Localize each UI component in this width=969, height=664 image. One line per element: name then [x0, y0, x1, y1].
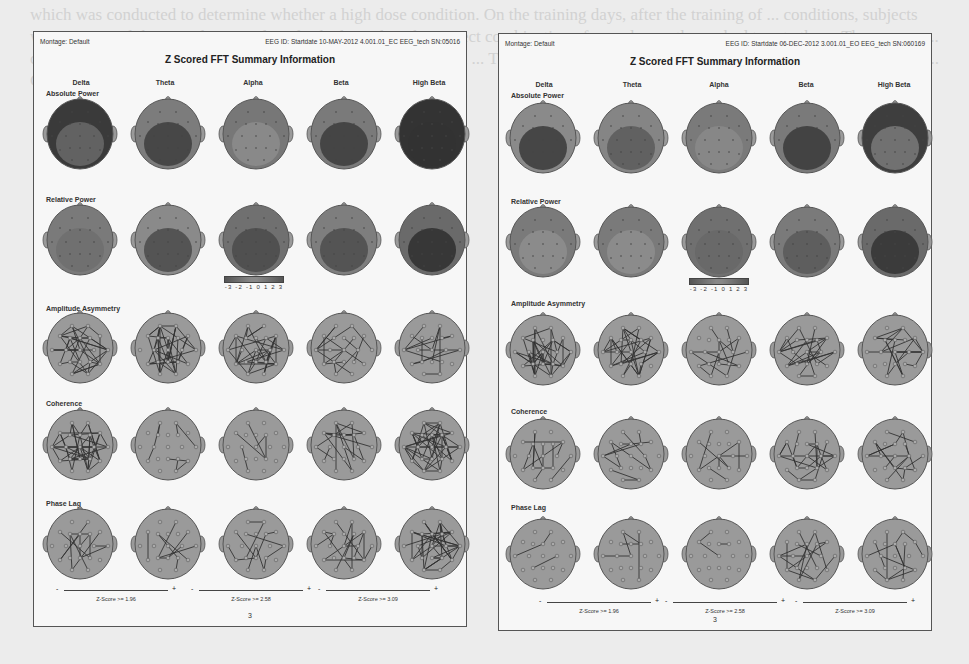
band-alpha: Alpha — [218, 79, 288, 86]
head-map-amplitude-asymmetry-beta — [306, 308, 382, 384]
zscore-legend-3: -+ Z-Score >= 3.09 — [795, 600, 915, 614]
head-map-relative-power-beta — [769, 202, 845, 278]
report-title: Z Scored FFT Summary Information — [34, 54, 466, 65]
head-map-phase-lag-alpha — [218, 504, 294, 580]
head-map-amplitude-asymmetry-high-beta — [857, 310, 933, 386]
head-map-absolute-power-high-beta — [394, 94, 470, 170]
row-label-phase-lag: Phase Lag — [511, 504, 546, 511]
head-map-coherence-high-beta — [857, 414, 933, 490]
head-map-coherence-beta — [769, 414, 845, 490]
colorbar-gradient — [689, 278, 749, 285]
head-map-coherence-high-beta — [394, 405, 470, 481]
head-map-relative-power-beta — [306, 200, 382, 276]
head-map-relative-power-alpha — [681, 202, 757, 278]
eeg-id-label: EEG ID: Startdate 06-DEC-2012 3.001.01_E… — [726, 40, 925, 47]
page-number: 3 — [499, 616, 931, 623]
head-map-amplitude-asymmetry-theta — [130, 308, 206, 384]
band-headers: Delta Theta Alpha Beta High Beta — [509, 81, 921, 91]
zscore-legend-2: -+ Z-Score >= 2.58 — [191, 588, 311, 602]
band-beta: Beta — [306, 79, 376, 86]
head-map-absolute-power-theta — [130, 94, 206, 170]
head-map-phase-lag-beta — [769, 514, 845, 590]
head-map-absolute-power-beta — [306, 94, 382, 170]
colorbar-gradient — [224, 276, 284, 283]
head-map-absolute-power-beta — [769, 98, 845, 174]
eeg-id-label: EEG ID: Startdate 10-MAY-2012 4.001.01_E… — [265, 38, 460, 45]
report-header: Montage: Default EEG ID: Startdate 06-DE… — [505, 40, 925, 52]
head-map-phase-lag-delta — [505, 514, 581, 590]
band-high-beta: High Beta — [859, 81, 929, 88]
band-delta: Delta — [509, 81, 579, 88]
head-map-coherence-delta — [505, 414, 581, 490]
head-map-amplitude-asymmetry-delta — [505, 310, 581, 386]
head-map-amplitude-asymmetry-alpha — [681, 310, 757, 386]
head-map-coherence-beta — [306, 405, 382, 481]
band-headers: Delta Theta Alpha Beta High Beta — [44, 79, 456, 89]
band-theta: Theta — [597, 81, 667, 88]
page-number: 3 — [34, 612, 466, 619]
head-map-amplitude-asymmetry-delta — [42, 308, 118, 384]
band-alpha: Alpha — [684, 81, 754, 88]
band-high-beta: High Beta — [394, 79, 464, 86]
head-map-phase-lag-delta — [42, 504, 118, 580]
head-map-absolute-power-delta — [42, 94, 118, 170]
eeg-report-panel-right: Montage: Default EEG ID: Startdate 06-DE… — [498, 33, 932, 631]
head-map-phase-lag-beta — [306, 504, 382, 580]
head-map-phase-lag-high-beta — [857, 514, 933, 590]
head-map-relative-power-high-beta — [857, 202, 933, 278]
zscore-legend-1: -+ Z-Score >= 1.96 — [539, 600, 659, 614]
report-title: Z Scored FFT Summary Information — [499, 56, 931, 67]
montage-label: Montage: Default — [505, 40, 555, 47]
zscore-colorbar: -3 -2 -1 0 1 2 3 — [224, 276, 284, 290]
head-map-amplitude-asymmetry-alpha — [218, 308, 294, 384]
head-map-relative-power-delta — [505, 202, 581, 278]
band-beta: Beta — [771, 81, 841, 88]
zscore-colorbar: -3 -2 -1 0 1 2 3 — [689, 278, 749, 292]
row-label-amplitude-asymmetry: Amplitude Asymmetry — [511, 300, 585, 307]
colorbar-ticks: -3 -2 -1 0 1 2 3 — [689, 286, 749, 292]
montage-label: Montage: Default — [40, 38, 90, 45]
zscore-legend-2: -+ Z-Score >= 2.58 — [665, 600, 785, 614]
head-map-coherence-alpha — [218, 405, 294, 481]
head-map-phase-lag-theta — [593, 514, 669, 590]
zscore-legend-3: -+ Z-Score >= 3.09 — [318, 588, 438, 602]
zscore-legend-1: -+ Z-Score >= 1.96 — [56, 588, 176, 602]
head-map-amplitude-asymmetry-beta — [769, 310, 845, 386]
head-map-phase-lag-alpha — [681, 514, 757, 590]
eeg-report-panel-left: Montage: Default EEG ID: Startdate 10-MA… — [33, 31, 467, 627]
band-theta: Theta — [130, 79, 200, 86]
head-map-relative-power-delta — [42, 200, 118, 276]
colorbar-ticks: -3 -2 -1 0 1 2 3 — [224, 284, 284, 290]
head-map-coherence-theta — [593, 414, 669, 490]
head-map-relative-power-theta — [593, 202, 669, 278]
band-delta: Delta — [46, 79, 116, 86]
head-map-amplitude-asymmetry-theta — [593, 310, 669, 386]
head-map-coherence-delta — [42, 405, 118, 481]
head-map-phase-lag-high-beta — [394, 504, 470, 580]
head-map-phase-lag-theta — [130, 504, 206, 580]
head-map-relative-power-high-beta — [394, 200, 470, 276]
head-map-amplitude-asymmetry-high-beta — [394, 308, 470, 384]
head-map-absolute-power-alpha — [218, 94, 294, 170]
head-map-absolute-power-high-beta — [857, 98, 933, 174]
head-map-coherence-alpha — [681, 414, 757, 490]
head-map-absolute-power-alpha — [681, 98, 757, 174]
head-map-coherence-theta — [130, 405, 206, 481]
head-map-relative-power-alpha — [218, 200, 294, 276]
head-map-absolute-power-delta — [505, 98, 581, 174]
report-header: Montage: Default EEG ID: Startdate 10-MA… — [40, 38, 460, 50]
head-map-absolute-power-theta — [593, 98, 669, 174]
head-map-relative-power-theta — [130, 200, 206, 276]
